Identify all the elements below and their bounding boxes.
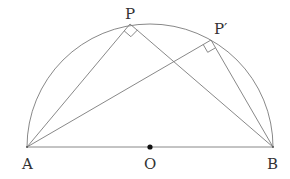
label-o: O (144, 155, 156, 173)
point-b (272, 146, 274, 148)
label-p: P (125, 5, 135, 23)
center-point-o (147, 144, 152, 149)
right-angle-mark-p-prime (203, 45, 215, 53)
point-a (26, 146, 28, 148)
label-a: A (21, 155, 33, 173)
diagram-canvas: A O B P P′ (0, 0, 290, 179)
segment-ap-prime (27, 40, 211, 147)
right-angle-mark-p (124, 30, 137, 37)
segment-p-prime-b (211, 40, 273, 147)
segment-pb (130, 24, 273, 147)
semicircle-arc (27, 24, 273, 147)
label-b: B (267, 155, 278, 173)
label-p-prime: P′ (214, 20, 228, 38)
segment-ap (27, 24, 130, 147)
